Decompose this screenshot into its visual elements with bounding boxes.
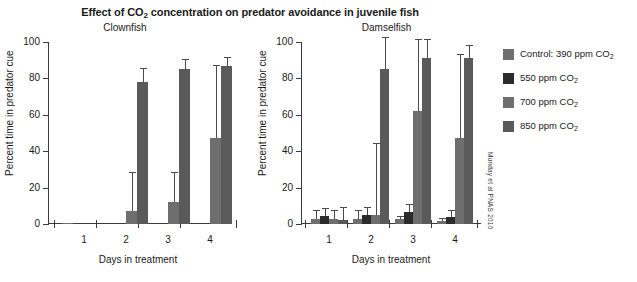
error-bar-cap bbox=[213, 65, 220, 66]
x-axis-tick-label: 4 bbox=[440, 234, 470, 245]
y-axis-tick bbox=[43, 224, 49, 225]
bar bbox=[371, 215, 380, 224]
panel-damselfish-xlabel: Days in treatment bbox=[301, 254, 481, 265]
bar bbox=[179, 69, 190, 224]
error-bar-cap bbox=[364, 207, 371, 208]
y-axis-tick bbox=[296, 188, 302, 189]
error-bar bbox=[469, 46, 470, 59]
figure-title-part2: concentration on predator avoidance in j… bbox=[148, 6, 419, 18]
error-bar bbox=[343, 208, 344, 221]
error-bar bbox=[451, 211, 452, 216]
legend-label-subscript: 2 bbox=[610, 53, 614, 60]
x-axis-tick bbox=[431, 220, 432, 228]
x-axis-tick bbox=[305, 220, 306, 228]
x-axis-tick bbox=[236, 220, 237, 228]
x-axis-tick bbox=[54, 220, 55, 228]
y-axis-tick-label: 40 bbox=[282, 145, 293, 156]
bar bbox=[422, 58, 431, 224]
error-bar bbox=[400, 217, 401, 220]
bar bbox=[446, 217, 455, 224]
x-axis-tick-label: 1 bbox=[69, 234, 99, 245]
error-bar-cap bbox=[322, 208, 329, 209]
bar bbox=[437, 221, 446, 224]
y-axis-tick bbox=[43, 115, 49, 116]
y-axis-line bbox=[48, 42, 49, 224]
x-axis-tick-label: 3 bbox=[153, 234, 183, 245]
bar bbox=[168, 202, 179, 224]
bar bbox=[320, 216, 329, 224]
x-axis-tick-label: 4 bbox=[195, 234, 225, 245]
figure-title-part1: Effect of CO bbox=[81, 6, 143, 18]
bar bbox=[338, 220, 347, 224]
y-axis-tick-label: 20 bbox=[29, 182, 40, 193]
error-bar-cap bbox=[182, 59, 189, 60]
bar bbox=[404, 212, 413, 224]
bar bbox=[464, 58, 473, 224]
error-bar-cap bbox=[466, 45, 473, 46]
bar bbox=[221, 66, 232, 224]
panel-clownfish-title: Clownfish bbox=[0, 22, 250, 33]
error-bar bbox=[325, 209, 326, 215]
legend-item-label: Control: 390 ppm CO2 bbox=[520, 48, 614, 59]
y-axis-tick bbox=[43, 78, 49, 79]
error-bar-cap bbox=[457, 54, 464, 55]
error-bar-cap bbox=[331, 210, 338, 211]
legend-label-subscript: 2 bbox=[574, 101, 578, 108]
error-bar-cap bbox=[224, 57, 231, 58]
y-axis-tick bbox=[43, 188, 49, 189]
y-axis-tick-label: 20 bbox=[282, 182, 293, 193]
legend-swatch-icon bbox=[503, 49, 514, 60]
legend-item[interactable]: 850 ppm CO2 bbox=[503, 120, 637, 132]
x-axis-tick bbox=[347, 220, 348, 228]
x-axis-tick-label: 2 bbox=[111, 234, 141, 245]
bar bbox=[395, 219, 404, 224]
x-axis-tick bbox=[389, 220, 390, 228]
error-bar-cap bbox=[439, 218, 446, 219]
legend-swatch-icon bbox=[503, 73, 514, 84]
error-bar bbox=[418, 40, 419, 111]
error-bar-cap bbox=[397, 216, 404, 217]
error-bar-cap bbox=[140, 68, 147, 69]
bar bbox=[329, 219, 338, 224]
y-axis-tick-label: 100 bbox=[276, 36, 293, 47]
panel-clownfish-plot: Days in treatment 0204060801001234 bbox=[48, 42, 228, 224]
legend-label-subscript: 2 bbox=[574, 125, 578, 132]
y-axis-tick bbox=[296, 42, 302, 43]
figure-title: Effect of CO2 concentration on predator … bbox=[0, 6, 500, 18]
y-axis-tick bbox=[43, 42, 49, 43]
error-bar bbox=[174, 173, 175, 202]
legend-item[interactable]: 550 ppm CO2 bbox=[503, 72, 637, 84]
legend-item[interactable]: Control: 390 ppm CO2 bbox=[503, 48, 637, 60]
error-bar bbox=[367, 208, 368, 215]
error-bar bbox=[216, 66, 217, 139]
error-bar bbox=[316, 211, 317, 219]
bar bbox=[353, 219, 362, 224]
y-axis-tick bbox=[43, 151, 49, 152]
panel-clownfish-ylabel: Percent time in predator cue bbox=[2, 22, 16, 204]
legend-label-text: 700 ppm CO bbox=[520, 96, 574, 107]
error-bar bbox=[334, 211, 335, 218]
legend-swatch-icon bbox=[503, 97, 514, 108]
y-axis-tick-label: 0 bbox=[34, 218, 40, 229]
error-bar bbox=[227, 58, 228, 65]
error-bar-cap bbox=[382, 37, 389, 38]
bar bbox=[210, 138, 221, 224]
legend-item[interactable]: 700 ppm CO2 bbox=[503, 96, 637, 108]
bar bbox=[362, 215, 371, 224]
y-axis-tick-label: 80 bbox=[29, 72, 40, 83]
error-bar-cap bbox=[171, 172, 178, 173]
legend-label-text: 550 ppm CO bbox=[520, 72, 574, 83]
bar bbox=[455, 138, 464, 224]
error-bar-cap bbox=[373, 143, 380, 144]
panel-damselfish-title: Damselfish bbox=[255, 22, 500, 33]
error-bar-cap bbox=[415, 39, 422, 40]
error-bar-cap bbox=[448, 210, 455, 211]
error-bar-cap bbox=[129, 172, 136, 173]
error-bar-cap bbox=[313, 210, 320, 211]
error-bar bbox=[385, 38, 386, 69]
x-axis-tick bbox=[477, 220, 478, 228]
legend-label-subscript: 2 bbox=[574, 77, 578, 84]
panel-damselfish-ylabel: Percent time in predator cue bbox=[255, 22, 269, 204]
y-axis-tick-label: 40 bbox=[29, 145, 40, 156]
figure-container: Effect of CO2 concentration on predator … bbox=[0, 0, 637, 282]
